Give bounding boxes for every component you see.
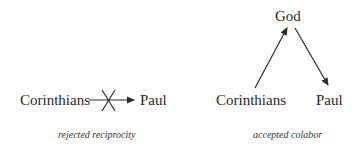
right-node-corinthians: Corinthians <box>216 93 286 108</box>
arrow-corinthians-to-god <box>255 28 287 88</box>
right-node-paul: Paul <box>316 93 343 108</box>
right-node-god: God <box>275 9 301 24</box>
right-caption: accepted colabor <box>253 130 322 140</box>
left-node-corinthians: Corinthians <box>20 93 90 108</box>
left-caption: rejected reciprocity <box>58 130 135 140</box>
arrow-god-to-paul <box>295 28 328 85</box>
left-node-paul: Paul <box>140 93 167 108</box>
